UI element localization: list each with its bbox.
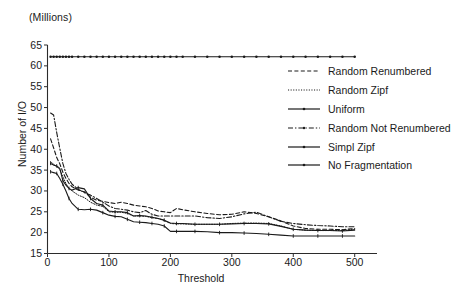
series-marker <box>255 55 258 58</box>
legend-label: Random Not Renumbered <box>328 122 451 134</box>
legend-swatch-icon <box>287 158 321 172</box>
legend-label: No Fragmentation <box>328 159 412 171</box>
series-marker <box>102 55 105 58</box>
series-marker <box>95 55 98 58</box>
series-marker <box>267 55 270 58</box>
series-marker <box>59 55 62 58</box>
series-marker <box>55 55 58 58</box>
series-marker <box>218 55 221 58</box>
legend-swatch-icon <box>287 83 321 97</box>
series-marker <box>175 55 178 58</box>
legend-swatch-icon <box>287 121 321 135</box>
legend-label: Random Renumbered <box>328 65 431 77</box>
series-marker <box>62 55 65 58</box>
series-marker <box>68 55 71 58</box>
series-marker <box>341 55 344 58</box>
legend-marker <box>303 145 306 148</box>
series-marker <box>304 55 307 58</box>
series-marker <box>145 55 148 58</box>
series-line-4 <box>51 172 355 236</box>
series-marker <box>65 55 68 58</box>
legend-label: Random Zipf <box>328 84 388 96</box>
series-marker <box>194 55 197 58</box>
series-marker <box>317 55 320 58</box>
series-marker <box>132 55 135 58</box>
series-marker <box>163 55 166 58</box>
series-marker <box>49 55 52 58</box>
legend-marker <box>303 108 306 111</box>
legend-marker <box>303 164 306 167</box>
series-marker <box>120 55 123 58</box>
series-marker <box>77 55 80 58</box>
series-marker <box>52 55 55 58</box>
series-marker <box>231 55 234 58</box>
series-marker <box>329 55 332 58</box>
series-marker <box>138 55 141 58</box>
legend-item[interactable]: Uniform <box>287 100 455 119</box>
series-marker <box>108 55 111 58</box>
series-marker <box>157 55 160 58</box>
legend-item[interactable]: Simpl Zipf <box>287 137 455 156</box>
chart-legend: Random RenumberedRandom ZipfUniformRando… <box>287 62 455 175</box>
series-marker <box>206 55 209 58</box>
series-marker <box>71 55 74 58</box>
series-marker <box>292 55 295 58</box>
legend-label: Uniform <box>328 103 365 115</box>
legend-marker <box>303 127 305 129</box>
series-marker <box>169 55 172 58</box>
chart-figure: (Millions) Number of I/O Threshold 15202… <box>0 0 455 296</box>
series-marker <box>353 55 356 58</box>
legend-swatch-icon <box>287 102 321 116</box>
series-marker <box>89 55 92 58</box>
series-marker <box>181 55 184 58</box>
series-marker <box>151 55 154 58</box>
series-marker <box>114 55 117 58</box>
series-marker <box>280 55 283 58</box>
series-marker <box>243 55 246 58</box>
legend-label: Simpl Zipf <box>328 141 375 153</box>
series-marker <box>83 55 86 58</box>
legend-item[interactable]: Random Not Renumbered <box>287 118 455 137</box>
legend-item[interactable]: Random Renumbered <box>287 62 455 81</box>
legend-swatch-icon <box>287 140 321 154</box>
legend-swatch-icon <box>287 64 321 78</box>
series-marker <box>126 55 129 58</box>
legend-item[interactable]: No Fragmentation <box>287 156 455 175</box>
legend-item[interactable]: Random Zipf <box>287 81 455 100</box>
